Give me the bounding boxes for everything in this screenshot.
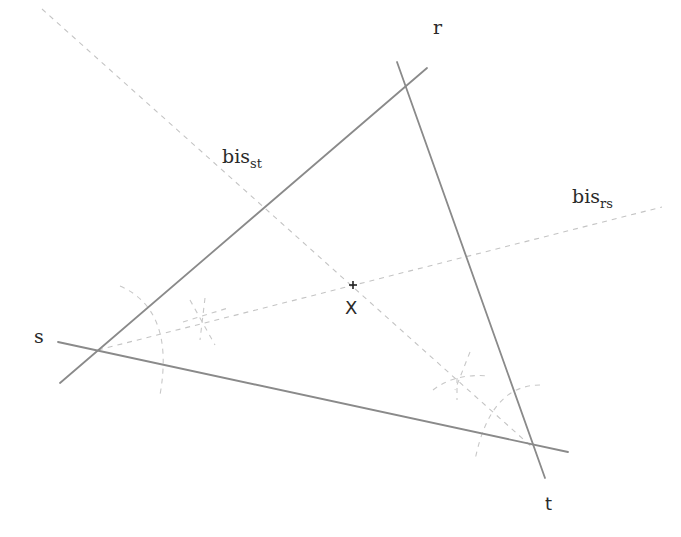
construction-arcs-vertex-sr	[120, 286, 228, 395]
line-s	[58, 342, 568, 452]
label-x: X	[345, 297, 357, 318]
label-bisector-rs: bisrs	[572, 185, 613, 211]
construction-arcs-vertex-ts	[433, 352, 540, 460]
label-s: s	[34, 325, 44, 347]
label-bisector-rs-subscript: rs	[600, 196, 613, 211]
label-bisector-st: bisst	[222, 145, 263, 171]
geometry-diagram: r s t X bisst bisrs	[0, 0, 681, 537]
label-t: t	[545, 493, 552, 514]
line-r	[60, 68, 427, 383]
line-t	[397, 62, 545, 478]
label-bisector-st-subscript: st	[250, 156, 263, 171]
label-bisector-st-base: bis	[222, 145, 250, 167]
label-bisector-rs-base: bis	[572, 185, 600, 207]
label-r: r	[433, 16, 443, 38]
point-x-marker	[349, 281, 357, 289]
